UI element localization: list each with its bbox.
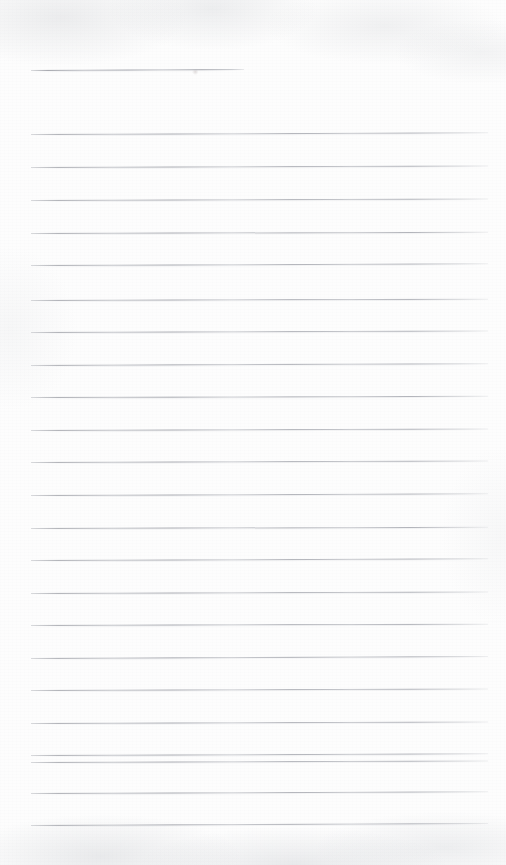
rule-2: [31, 166, 488, 168]
rule-13: [31, 527, 488, 529]
rule-14: [31, 558, 488, 561]
rule-5: [31, 263, 488, 266]
rule-9: [31, 396, 488, 398]
rule-21: [31, 760, 488, 763]
rule-12: [31, 493, 488, 496]
notepad-page: [0, 0, 506, 865]
paper-grain-texture: [0, 0, 506, 865]
rule-3: [31, 198, 488, 201]
rule-11: [31, 461, 488, 463]
rule-16: [31, 624, 488, 626]
rule-15: [31, 591, 488, 594]
header-rule: [31, 69, 244, 71]
rule-7: [31, 330, 488, 333]
rule-4: [31, 232, 488, 234]
rule-18: [31, 689, 488, 691]
rule-6: [31, 299, 488, 301]
rule-1: [31, 132, 488, 135]
rule-19: [31, 721, 488, 724]
rule-17: [31, 656, 488, 659]
rule-10: [31, 428, 488, 431]
rule-8: [31, 363, 488, 366]
rule-20: [31, 753, 488, 756]
rule-23: [31, 823, 488, 826]
rule-22: [31, 791, 488, 794]
